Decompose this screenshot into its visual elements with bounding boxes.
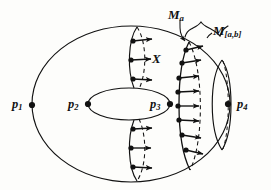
label-p4: p4 <box>237 98 248 112</box>
marked-point-p1 <box>29 102 35 108</box>
label-ma-sub: a <box>180 13 184 23</box>
label-mab-sub: [a,b] <box>225 29 242 39</box>
label-p3: p3 <box>150 98 161 112</box>
label-level-region-mab: M[a,b] <box>213 24 241 39</box>
marked-point-p2 <box>85 101 91 107</box>
vector-arrows-lower-left <box>128 126 152 169</box>
figure-container: p1 p2 p3 p4 X Ma M[a,b] <box>0 0 271 190</box>
label-ma-base: M <box>168 7 180 22</box>
leader-line-m-ab <box>207 33 212 38</box>
label-p3-sub: 3 <box>156 102 160 112</box>
label-x-base: X <box>152 51 161 66</box>
marked-point-p4 <box>225 101 231 107</box>
label-level-set-ma: Ma <box>168 8 184 23</box>
label-p2: p2 <box>68 98 79 112</box>
label-p1-sub: 1 <box>18 102 22 112</box>
marked-point-p3 <box>167 101 173 107</box>
label-p4-sub: 4 <box>243 102 247 112</box>
label-vector-field-x: X <box>152 52 161 65</box>
label-mab-base: M <box>213 23 225 38</box>
label-p2-sub: 2 <box>74 102 78 112</box>
outer-boundary-curve <box>32 26 230 182</box>
label-p1: p1 <box>12 98 23 112</box>
vector-arrows-upper-left <box>128 38 152 81</box>
